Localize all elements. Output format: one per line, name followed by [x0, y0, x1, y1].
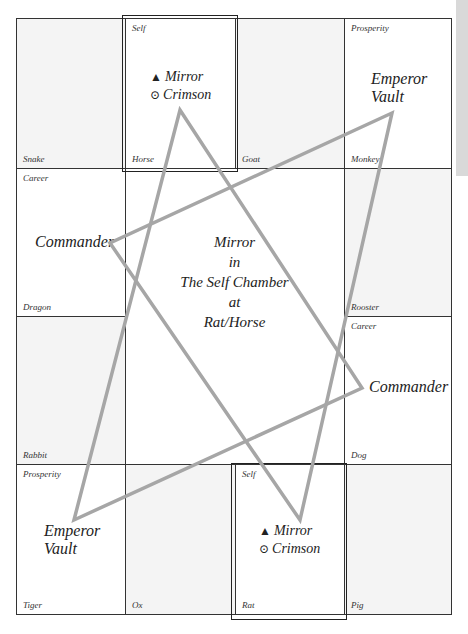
branch-label: Rabbit — [23, 450, 47, 460]
branch-label: Snake — [23, 154, 45, 164]
center-line-2: in — [125, 252, 344, 272]
center-title: Mirror in The Self Chamber at Rat/Horse — [125, 232, 344, 380]
cell-pig: Pig — [344, 464, 452, 615]
star-emperor-tiger: Emperor — [44, 522, 100, 540]
palace-label: Career — [351, 321, 376, 331]
star-commander-dragon: Commander — [35, 233, 114, 251]
star-mirror-rat: ▲Mirror — [259, 522, 312, 540]
star-commander-dog: Commander — [369, 378, 448, 396]
palace-label: Prosperity — [351, 23, 389, 33]
triangle-icon: ▲ — [259, 524, 271, 538]
branch-label: Rooster — [351, 302, 379, 312]
star-crimson-horse: ⊙Crimson — [150, 86, 211, 104]
triangle-icon: ▲ — [150, 70, 162, 84]
center-line-5: Rat/Horse — [125, 312, 344, 332]
star-vault-tiger: Vault — [44, 540, 77, 558]
branch-label: Dragon — [23, 302, 51, 312]
branch-label: Dog — [351, 450, 367, 460]
branch-label: Pig — [351, 600, 364, 610]
star-name: Mirror — [274, 523, 312, 538]
branch-label: Monkey — [351, 154, 379, 164]
center-line-1: Mirror — [125, 232, 344, 252]
star-emperor-monkey: Emperor — [371, 70, 427, 88]
cell-rooster: Rooster — [344, 168, 452, 317]
circle-dot-icon: ⊙ — [150, 88, 160, 102]
center-line-3: The Self Chamber — [125, 272, 344, 292]
star-vault-monkey: Vault — [371, 88, 404, 106]
circle-dot-icon: ⊙ — [259, 542, 269, 556]
cell-ox: Ox — [125, 464, 236, 615]
branch-label: Goat — [242, 154, 260, 164]
cell-goat: Goat — [235, 18, 345, 169]
star-name: Mirror — [165, 69, 203, 84]
star-crimson-rat: ⊙Crimson — [259, 540, 320, 558]
star-name: Crimson — [272, 541, 320, 556]
palace-label: Prosperity — [23, 469, 61, 479]
star-mirror-horse: ▲Mirror — [150, 68, 203, 86]
cell-rabbit: Rabbit — [16, 316, 126, 465]
palace-label: Career — [23, 173, 48, 183]
cell-snake: Snake — [16, 18, 126, 169]
star-name: Crimson — [163, 87, 211, 102]
branch-label: Tiger — [23, 600, 42, 610]
side-tab — [456, 0, 468, 176]
branch-label: Ox — [132, 600, 143, 610]
center-line-4: at — [125, 292, 344, 312]
